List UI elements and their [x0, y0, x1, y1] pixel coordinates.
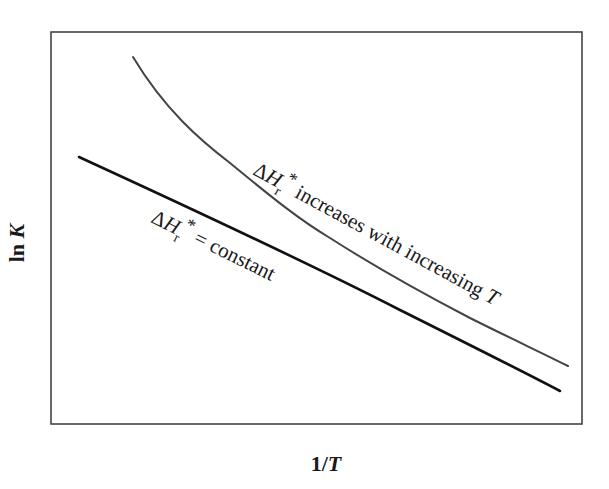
series-increasing-label: ΔHr* increases with increasing T: [247, 152, 507, 315]
chart-figure: ΔHr* increases with increasing T ΔHr* = …: [0, 0, 609, 489]
x-axis-title: 1/T: [311, 451, 343, 476]
y-axis-title: ln K: [4, 222, 29, 262]
plot-frame: [51, 32, 582, 424]
series-constant-label: ΔHr* = constant: [146, 200, 283, 291]
